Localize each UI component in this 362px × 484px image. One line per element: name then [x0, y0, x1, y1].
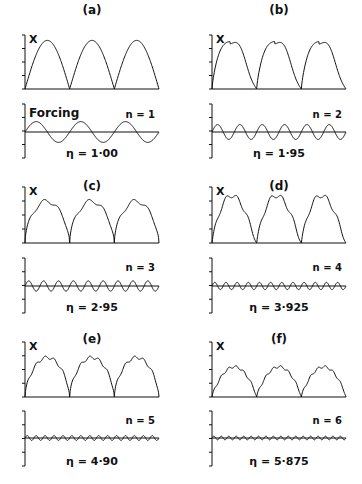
- panel-title: (b): [269, 3, 289, 17]
- panel-b: (b)Xn = 2η = 1·95: [209, 3, 346, 160]
- panel-title: (e): [82, 332, 101, 346]
- response-curve: [25, 200, 159, 243]
- panel-title: (c): [83, 179, 101, 193]
- n-label: n = 6: [313, 415, 342, 426]
- x-axis-label: X: [29, 185, 38, 198]
- panel-d: (d)Xn = 4η = 3·925: [209, 179, 346, 314]
- x-axis-label: X: [29, 33, 38, 46]
- panel-c: (c)Xn = 3η = 2·95: [22, 179, 159, 314]
- figure: (a)XForcingn = 1η = 1·00(b)Xn = 2η = 1·9…: [0, 0, 362, 484]
- response-curve: [212, 42, 346, 89]
- x-axis-label: X: [216, 185, 225, 198]
- x-axis-label: X: [216, 33, 225, 46]
- forcing-label: Forcing: [29, 106, 79, 120]
- x-axis-label: X: [29, 340, 38, 353]
- eta-label: η = 4·90: [66, 455, 118, 468]
- panel-e: (e)Xn = 5η = 4·90: [22, 332, 159, 468]
- panel-title: (d): [269, 179, 289, 193]
- panel-title: (f): [271, 332, 287, 346]
- x-axis-label: X: [216, 340, 225, 353]
- eta-label: η = 1·00: [66, 147, 118, 160]
- response-curve: [25, 356, 159, 397]
- response-curve: [212, 195, 346, 243]
- eta-label: η = 3·925: [249, 301, 309, 314]
- panel-title: (a): [82, 3, 101, 17]
- eta-label: η = 1·95: [253, 147, 305, 160]
- response-curve: [212, 366, 346, 397]
- panel-a: (a)XForcingn = 1η = 1·00: [22, 3, 159, 160]
- response-curve: [25, 40, 159, 89]
- n-label: n = 5: [126, 415, 155, 426]
- n-label: n = 4: [313, 262, 342, 273]
- n-label: n = 2: [313, 109, 342, 120]
- panel-f: (f)Xn = 6η = 5·875: [209, 332, 346, 468]
- eta-label: η = 5·875: [249, 455, 309, 468]
- eta-label: η = 2·95: [66, 301, 118, 314]
- n-label: n = 1: [126, 109, 155, 120]
- n-label: n = 3: [126, 262, 155, 273]
